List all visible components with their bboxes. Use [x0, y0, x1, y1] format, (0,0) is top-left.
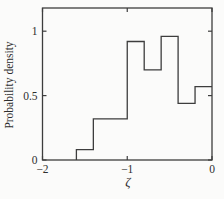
histogram-steps [76, 36, 212, 160]
x-tick-label: −2 [36, 163, 48, 175]
x-tick-label: 0 [209, 163, 215, 175]
x-axis-title: ζ [125, 174, 131, 189]
y-tick-label: 1 [32, 25, 38, 37]
histogram-figure: −2−1000.51 Probability density ζ [0, 0, 224, 199]
plot-area: −2−1000.51 Probability density ζ [0, 0, 224, 199]
chart-layer: −2−1000.51 [23, 8, 215, 175]
y-tick-label: 0 [32, 154, 38, 166]
y-tick-label: 0.5 [23, 90, 38, 102]
y-axis-title: Probability density [3, 41, 16, 128]
